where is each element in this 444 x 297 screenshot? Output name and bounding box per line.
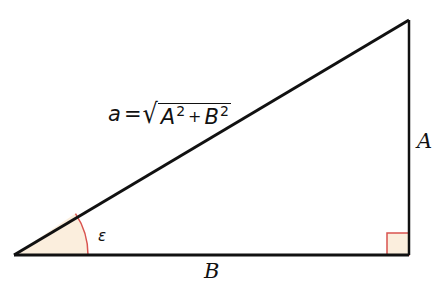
triangle-figure — [0, 0, 444, 297]
side-label-B: B — [204, 261, 219, 282]
triangle-diagram: a = √ A2 + B2 A B ε — [0, 0, 444, 297]
right-angle-marker — [387, 233, 409, 255]
radicand-term-B: B — [204, 107, 218, 128]
hypotenuse-a — [14, 20, 409, 255]
radicand: A2 + B2 — [158, 103, 231, 128]
radicand-term-A: A — [161, 107, 175, 128]
exponent-A: 2 — [176, 104, 185, 118]
plus-sign: + — [188, 109, 201, 125]
hypotenuse-variable: a — [108, 104, 121, 125]
equals-sign: = — [124, 104, 142, 125]
radical-icon: √ — [142, 100, 157, 128]
hypotenuse-formula: a = √ A2 + B2 — [108, 104, 231, 128]
exponent-B: 2 — [220, 104, 229, 118]
angle-label-epsilon: ε — [98, 229, 106, 244]
side-label-A: A — [417, 131, 432, 152]
